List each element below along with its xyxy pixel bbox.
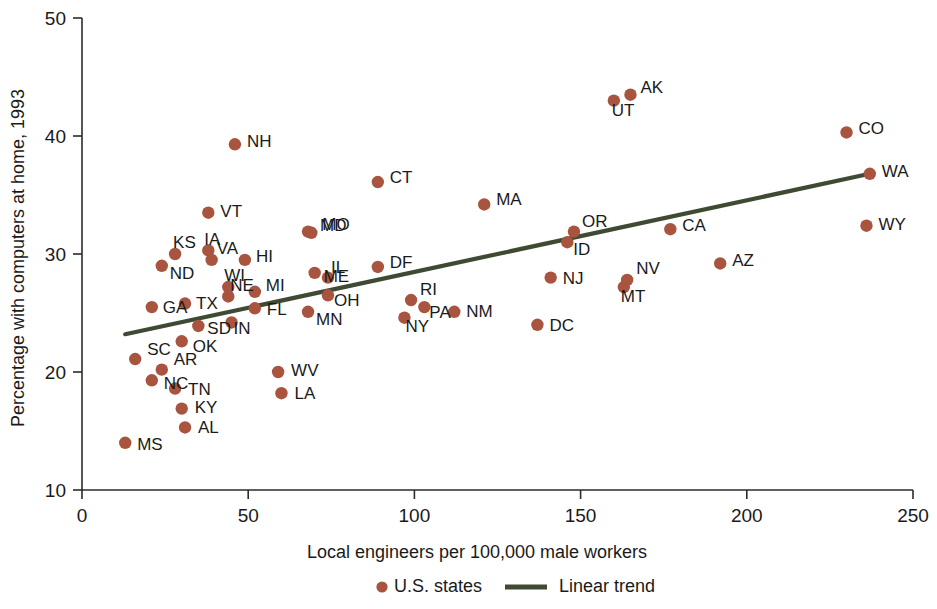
x-tick-label: 50 bbox=[238, 505, 259, 526]
data-point bbox=[129, 353, 141, 365]
x-axis-title: Local engineers per 100,000 male workers bbox=[307, 542, 647, 562]
y-tick-label: 20 bbox=[45, 362, 66, 383]
data-point bbox=[302, 306, 314, 318]
data-point-label: AL bbox=[198, 418, 219, 437]
legend-label-us-states: U.S. states bbox=[394, 576, 482, 596]
data-point-label: CT bbox=[390, 168, 413, 187]
data-point-label: MD bbox=[320, 216, 346, 235]
x-tick-label: 150 bbox=[565, 505, 597, 526]
x-tick-label: 250 bbox=[897, 505, 929, 526]
data-point bbox=[202, 207, 214, 219]
data-point bbox=[249, 302, 261, 314]
y-axis-ticks: 1020304050 bbox=[45, 8, 82, 501]
data-point-label: DC bbox=[549, 316, 574, 335]
data-point bbox=[372, 261, 384, 273]
data-point-label: IN bbox=[234, 319, 251, 338]
legend-label-linear-trend: Linear trend bbox=[559, 576, 655, 596]
data-point-label: WV bbox=[291, 361, 319, 380]
data-point-label: CO bbox=[859, 119, 885, 138]
x-tick-label: 200 bbox=[731, 505, 763, 526]
data-point bbox=[229, 138, 241, 150]
data-point bbox=[322, 289, 334, 301]
data-point bbox=[176, 335, 188, 347]
data-point bbox=[624, 89, 636, 101]
data-point-label: MT bbox=[621, 287, 646, 306]
data-point-label: NJ bbox=[563, 269, 584, 288]
data-point bbox=[621, 274, 633, 286]
data-point-label: TN bbox=[188, 380, 211, 399]
data-point bbox=[561, 236, 573, 248]
data-point bbox=[568, 225, 580, 237]
data-point bbox=[119, 437, 131, 449]
data-point-label: WA bbox=[882, 162, 909, 181]
data-point-label: RI bbox=[420, 280, 437, 299]
data-point-label: ND bbox=[170, 264, 195, 283]
data-point-label: DF bbox=[390, 253, 413, 272]
data-point-label: OR bbox=[582, 212, 608, 231]
y-tick-label: 30 bbox=[45, 244, 66, 265]
data-point-label: KS bbox=[173, 233, 196, 252]
data-point-label: OH bbox=[334, 291, 360, 310]
data-point-label: AK bbox=[640, 78, 663, 97]
data-point bbox=[405, 294, 417, 306]
data-point bbox=[544, 271, 556, 283]
data-point-label: SD bbox=[207, 319, 231, 338]
data-point-label: KY bbox=[195, 398, 218, 417]
data-point-label: GA bbox=[163, 298, 188, 317]
data-point bbox=[146, 374, 158, 386]
data-point-label: MI bbox=[266, 276, 285, 295]
data-point-label: PA bbox=[429, 303, 451, 322]
data-point-label: OK bbox=[193, 337, 218, 356]
data-point-label: IL bbox=[331, 258, 345, 277]
data-point-label: TX bbox=[196, 294, 218, 313]
data-point-label: FL bbox=[267, 300, 287, 319]
legend-dot-icon bbox=[376, 581, 387, 592]
data-point bbox=[146, 301, 158, 313]
data-point bbox=[272, 366, 284, 378]
y-axis-title: Percentage with computers at home, 1993 bbox=[8, 89, 28, 427]
x-tick-label: 100 bbox=[399, 505, 431, 526]
data-point bbox=[372, 176, 384, 188]
data-point-label: MN bbox=[316, 310, 342, 329]
x-tick-label: 0 bbox=[77, 505, 88, 526]
x-axis-ticks: 050100150200250 bbox=[77, 490, 929, 526]
data-point bbox=[239, 254, 251, 266]
data-point bbox=[275, 387, 287, 399]
data-point bbox=[308, 267, 320, 279]
data-point bbox=[864, 168, 876, 180]
data-point bbox=[156, 260, 168, 272]
data-point bbox=[192, 320, 204, 332]
data-point-label: CA bbox=[682, 216, 706, 235]
data-point-label: NV bbox=[636, 259, 660, 278]
data-point-label: NH bbox=[247, 132, 272, 151]
y-tick-label: 40 bbox=[45, 126, 66, 147]
data-point-label: AZ bbox=[732, 251, 754, 270]
data-point-label: MA bbox=[496, 190, 522, 209]
data-point-label: MS bbox=[137, 435, 163, 454]
y-tick-label: 50 bbox=[45, 8, 66, 29]
plot-area: 1020304050 050100150200250 MSSCNCARTNKYA… bbox=[0, 0, 937, 609]
data-point-label: SC bbox=[147, 340, 171, 359]
data-point-label: NY bbox=[405, 317, 429, 336]
data-point bbox=[478, 198, 490, 210]
y-tick-label: 10 bbox=[45, 480, 66, 501]
data-point bbox=[840, 126, 852, 138]
data-point-label: WI bbox=[224, 266, 245, 285]
data-point-labels-group: MSSCNCARTNKYALOKGANDKSTXSDVTIAVANEINWIMI… bbox=[137, 78, 909, 454]
data-point-label: NC bbox=[164, 374, 189, 393]
data-point-label: VT bbox=[220, 202, 242, 221]
data-point bbox=[860, 219, 872, 231]
data-point-label: HI bbox=[256, 247, 273, 266]
data-point bbox=[179, 421, 191, 433]
data-point bbox=[302, 225, 314, 237]
data-point-label: ID bbox=[573, 240, 590, 259]
data-point bbox=[714, 257, 726, 269]
data-point bbox=[531, 319, 543, 331]
data-point-label: WY bbox=[878, 215, 905, 234]
data-point-label: NM bbox=[466, 302, 492, 321]
data-point-label: LA bbox=[294, 384, 315, 403]
chart-legend: U.S. statesLinear trend bbox=[376, 576, 655, 596]
scatter-chart: 1020304050 050100150200250 MSSCNCARTNKYA… bbox=[0, 0, 937, 609]
data-point-label: UT bbox=[612, 101, 635, 120]
data-point-label: VA bbox=[217, 239, 239, 258]
